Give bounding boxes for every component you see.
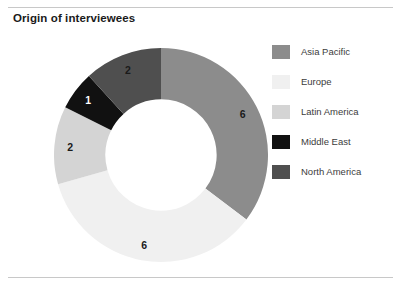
donut-chart-svg: 66212	[54, 36, 268, 274]
slice-value-label: 1	[85, 94, 91, 106]
slice-value-label: 6	[141, 239, 147, 251]
legend-item[interactable]: North America	[272, 157, 398, 187]
legend-item[interactable]: Europe	[272, 67, 398, 97]
bottom-divider	[8, 277, 393, 278]
donut-chart: 66212	[54, 36, 268, 274]
legend-swatch-icon	[272, 165, 290, 179]
slice-value-label: 2	[125, 64, 131, 76]
donut-slice-asia-pacific[interactable]	[161, 48, 268, 219]
chart-legend: Asia PacificEuropeLatin AmericaMiddle Ea…	[272, 37, 398, 187]
legend-item-label: Europe	[301, 77, 332, 87]
legend-item-label: Latin America	[301, 107, 359, 117]
chart-page: Origin of interviewees 66212 Asia Pacifi…	[0, 0, 401, 285]
slice-value-label: 2	[67, 141, 73, 153]
top-divider	[8, 7, 393, 8]
legend-swatch-icon	[272, 75, 290, 89]
legend-item-label: North America	[301, 167, 361, 177]
legend-swatch-icon	[272, 105, 290, 119]
legend-item[interactable]: Asia Pacific	[272, 37, 398, 67]
legend-item[interactable]: Latin America	[272, 97, 398, 127]
legend-swatch-icon	[272, 135, 290, 149]
legend-item[interactable]: Middle East	[272, 127, 398, 157]
slice-value-label: 6	[240, 108, 246, 120]
donut-slice-group	[54, 48, 268, 262]
legend-item-label: Middle East	[301, 137, 351, 147]
page-title: Origin of interviewees	[13, 12, 135, 24]
legend-swatch-icon	[272, 45, 290, 59]
legend-item-label: Asia Pacific	[301, 47, 350, 57]
